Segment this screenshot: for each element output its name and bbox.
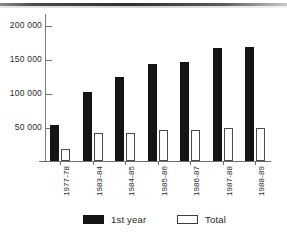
bar-chart-plot-area: 200 000 150 000 100 000 50 000 1977-7819… bbox=[0, 0, 287, 236]
legend-label-1st-year: 1st year bbox=[111, 214, 146, 225]
x-axis-label: 1983-84 bbox=[95, 166, 104, 196]
chart-screenshot: 200 000 150 000 100 000 50 000 1977-7819… bbox=[0, 0, 287, 236]
bar-group bbox=[245, 14, 265, 161]
chart-legend: 1st year Total bbox=[0, 212, 287, 228]
filled-black-swatch-icon bbox=[83, 215, 104, 224]
y-axis-label-50000: 50 000 bbox=[0, 123, 42, 132]
bar-group bbox=[50, 14, 70, 161]
bar-total bbox=[191, 130, 200, 161]
bar-total bbox=[126, 133, 135, 161]
bar-total bbox=[159, 130, 168, 161]
x-axis-label: 1988-89 bbox=[257, 166, 266, 196]
x-axis-label: 1985-86 bbox=[160, 166, 169, 196]
bar-1st-year bbox=[245, 47, 254, 161]
legend-item-total: Total bbox=[177, 214, 226, 225]
bar-group bbox=[213, 14, 233, 161]
x-tick bbox=[158, 161, 159, 165]
x-axis-label: 1984-85 bbox=[127, 166, 136, 196]
y-axis-line bbox=[45, 14, 46, 162]
bar-total bbox=[94, 133, 103, 161]
legend-label-total: Total bbox=[205, 214, 226, 225]
bar-1st-year bbox=[180, 62, 189, 161]
x-axis-label: 1987-88 bbox=[225, 166, 234, 196]
bar-total bbox=[224, 128, 233, 161]
x-tick bbox=[190, 161, 191, 165]
x-axis-line bbox=[39, 161, 271, 162]
bar-1st-year bbox=[83, 92, 92, 161]
bar-1st-year bbox=[50, 125, 59, 161]
bar-1st-year bbox=[115, 77, 124, 161]
x-tick bbox=[60, 161, 61, 165]
bar-group bbox=[148, 14, 168, 161]
y-axis-label-150000: 150 000 bbox=[0, 55, 42, 64]
bar-1st-year bbox=[213, 48, 222, 161]
bar-1st-year bbox=[148, 64, 157, 161]
bar-total bbox=[256, 128, 265, 161]
y-axis-label-100000: 100 000 bbox=[0, 89, 42, 98]
legend-item-1st-year: 1st year bbox=[83, 214, 146, 225]
y-label-150000-wrap: 150 000 bbox=[0, 55, 42, 64]
bar-group bbox=[180, 14, 200, 161]
y-axis-label-200000: 200 000 bbox=[0, 21, 42, 30]
x-tick bbox=[255, 161, 256, 165]
x-axis-label: 1986-87 bbox=[192, 166, 201, 196]
x-axis-label: 1977-78 bbox=[62, 166, 71, 196]
outlined-white-swatch-icon bbox=[177, 215, 198, 224]
bar-group bbox=[83, 14, 103, 161]
y-label-100000-wrap: 100 000 bbox=[0, 89, 42, 98]
x-tick bbox=[223, 161, 224, 165]
y-label-200000-wrap: 200 000 bbox=[0, 21, 42, 30]
bar-total bbox=[61, 149, 70, 161]
x-tick bbox=[93, 161, 94, 165]
x-tick bbox=[125, 161, 126, 165]
y-label-50000-wrap: 50 000 bbox=[0, 123, 42, 132]
bar-group bbox=[115, 14, 135, 161]
